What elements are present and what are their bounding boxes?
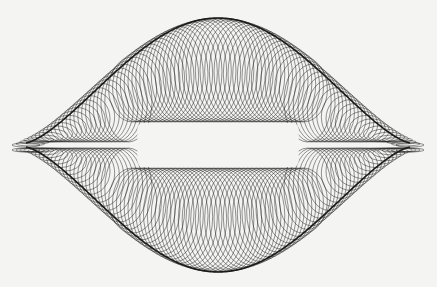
pattern-canvas — [0, 0, 437, 287]
harmonograph-drawing — [0, 0, 437, 287]
